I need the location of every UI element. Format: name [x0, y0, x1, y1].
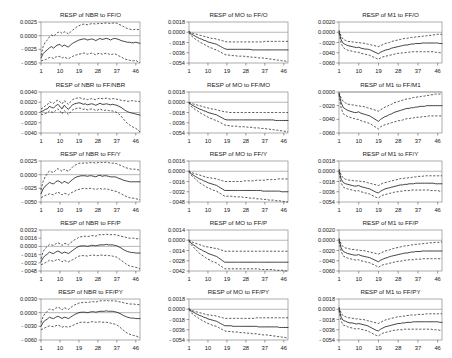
x-tick-label: 46 [133, 138, 139, 144]
x-tick-label: 1 [337, 207, 340, 213]
irf-panel: RESP of MO to FF/O0.00180.0000- 0018- 00… [148, 8, 300, 80]
x-tick-label: 28 [95, 138, 101, 144]
x-tick-label: 1 [39, 345, 42, 351]
x-tick-label: 1 [187, 138, 190, 144]
y-tick-label: 0.0018 [168, 89, 185, 95]
y-tick-label: - 0048 [21, 268, 37, 274]
x-tick-label: 10 [205, 138, 211, 144]
x-tick-label: 1 [187, 207, 190, 213]
response-line [189, 32, 288, 50]
x-tick-label: 37 [415, 68, 421, 74]
x-tick-label: 10 [355, 68, 361, 74]
panel-title: RESP of M1 to FF/PY [360, 288, 420, 295]
y-tick-label: - 0054 [169, 337, 185, 343]
x-tick-label: 10 [205, 345, 211, 351]
plot-frame [339, 230, 442, 271]
x-tick-label: 37 [114, 276, 120, 282]
y-tick-label: - 0040 [319, 258, 335, 264]
confidence-band-line [339, 95, 442, 129]
x-tick-label: 1 [187, 276, 190, 282]
irf-panel: RESP of NBR to FF/Y0.00250.0000- 0025- 0… [0, 147, 152, 219]
y-tick-label: - 0020 [319, 40, 335, 46]
y-tick-label: 0.0016 [20, 235, 37, 241]
irf-panel: RESP of MO to FF/P0.00140.0000- 0014- 00… [148, 216, 300, 288]
irf-panel: RESP of NBR to FF/NBR0.00400.00200.0000-… [0, 78, 152, 150]
x-tick-label: 28 [395, 68, 401, 74]
x-tick-label: 37 [114, 345, 120, 351]
x-tick-label: 1 [39, 207, 42, 213]
x-tick-label: 37 [262, 207, 268, 213]
y-tick-label: 0.0032 [20, 227, 37, 233]
response-line [41, 38, 140, 58]
x-tick-label: 37 [262, 68, 268, 74]
y-tick-label: 0.0025 [20, 19, 37, 25]
response-line [339, 309, 442, 331]
x-tick-label: 46 [434, 276, 440, 282]
y-tick-label: - 0025 [21, 185, 37, 191]
panel-title: RESP of MO to FF/PY [208, 288, 269, 295]
response-line [41, 244, 140, 261]
y-tick-label: 0.0000 [20, 172, 37, 178]
x-tick-label: 46 [434, 68, 440, 74]
y-tick-label: 0.0020 [318, 227, 335, 233]
y-tick-label: 0.0000 [318, 306, 335, 312]
x-tick-label: 10 [57, 207, 63, 213]
confidence-band-line [41, 108, 140, 132]
y-tick-label: - 0028 [169, 258, 185, 264]
x-tick-label: 28 [395, 138, 401, 144]
y-tick-label: - 0036 [169, 327, 185, 333]
x-tick-label: 28 [243, 207, 249, 213]
y-tick-label: - 0016 [21, 252, 37, 258]
x-tick-label: 46 [133, 276, 139, 282]
confidence-band-line [41, 53, 140, 63]
y-tick-label: 0.0018 [168, 19, 185, 25]
irf-panel: RESP of NBR to FF/P0.00320.00160.0000- 0… [0, 216, 152, 288]
impulse-response-figure: RESP of NBR to FF/O0.00250.0000- 0025- 0… [0, 0, 452, 358]
x-tick-label: 1 [39, 68, 42, 74]
panel-title: RESP of NBR to FF/NBR [56, 81, 126, 88]
y-tick-label: - 0014 [169, 248, 185, 254]
y-tick-label: - 0060 [319, 268, 335, 274]
y-tick-label: - 0040 [21, 130, 37, 136]
y-tick-label: 0.0000 [168, 29, 185, 35]
x-tick-label: 1 [337, 345, 340, 351]
x-tick-label: 19 [375, 68, 381, 74]
panel-title: RESP of M1 to FF/M1 [360, 81, 421, 88]
x-tick-label: 28 [243, 138, 249, 144]
x-tick-label: 10 [205, 68, 211, 74]
y-tick-label: 0.0016 [168, 158, 185, 164]
panel-title: RESP of NBR to FF/PY [58, 288, 123, 295]
x-tick-label: 10 [57, 138, 63, 144]
confidence-band-line [189, 241, 288, 271]
confidence-band-line [189, 171, 288, 182]
irf-panel: RESP of M1 to FF/O0.00200.0000- 0020- 00… [298, 8, 452, 80]
confidence-band-line [41, 255, 140, 269]
y-tick-label: 0.0020 [20, 99, 37, 105]
y-tick-label: - 0018 [169, 110, 185, 116]
response-line [189, 240, 288, 262]
x-tick-label: 37 [262, 138, 268, 144]
y-tick-label: - 0018 [169, 317, 185, 323]
y-tick-label: - 0040 [319, 50, 335, 56]
x-tick-label: 19 [224, 276, 230, 282]
x-tick-label: 37 [114, 207, 120, 213]
y-tick-label: - 0030 [21, 323, 37, 329]
y-tick-label: 0.0000 [318, 237, 335, 243]
y-tick-label: - 0042 [169, 268, 185, 274]
irf-panel: RESP of NBR to FF/PY0.00300.0000- 0030- … [0, 285, 152, 357]
x-tick-label: 10 [57, 345, 63, 351]
plot-frame [189, 230, 288, 271]
y-tick-label: 0.0018 [318, 296, 335, 302]
irf-panel: RESP of M1 to FF/PY0.00180.0000- 0018- 0… [298, 285, 452, 357]
x-tick-label: 10 [57, 68, 63, 74]
confidence-band-line [41, 188, 140, 199]
y-tick-label: 0.0040 [20, 89, 37, 95]
irf-panel: RESP of M1 to FF/M10.0000- 0020- 0040- 0… [298, 78, 452, 150]
x-tick-label: 28 [395, 276, 401, 282]
panel-title: RESP of NBR to FF/P [60, 219, 120, 226]
x-tick-label: 19 [375, 207, 381, 213]
y-tick-label: 0.0018 [318, 158, 335, 164]
confidence-band-line [41, 98, 140, 109]
x-tick-label: 19 [76, 276, 82, 282]
panel-title: RESP of NBR to FF/O [60, 11, 121, 18]
